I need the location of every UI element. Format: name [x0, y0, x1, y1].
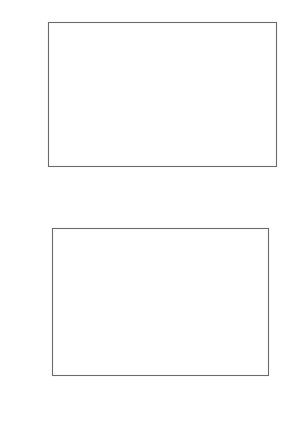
top-chart-panel: [0, 0, 288, 215]
top-scatter-plot: [0, 0, 288, 215]
top-plot-frame: [49, 23, 277, 167]
bottom-plot-frame: [53, 229, 269, 376]
bottom-scatter-plot: [0, 215, 288, 430]
bottom-chart-panel: [0, 215, 288, 430]
